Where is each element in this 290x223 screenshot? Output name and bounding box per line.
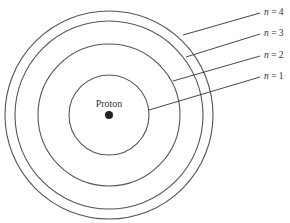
proton-label: Proton <box>96 98 123 109</box>
proton-dot <box>105 111 113 119</box>
bohr-diagram: Proton n = 4 n = 3 n = 2 n = 1 <box>0 0 290 223</box>
leader-line-n1 <box>149 77 260 110</box>
leader-line-n2 <box>173 56 260 81</box>
label-n1: n = 1 <box>264 71 284 81</box>
level-labels: n = 4 n = 3 n = 2 n = 1 <box>264 7 284 81</box>
leader-line-n3 <box>186 34 260 57</box>
label-n4: n = 4 <box>264 7 284 17</box>
label-n2: n = 2 <box>264 50 284 60</box>
leader-line-n4 <box>183 13 260 35</box>
label-n3: n = 3 <box>264 28 284 38</box>
nucleus: Proton <box>96 98 123 119</box>
